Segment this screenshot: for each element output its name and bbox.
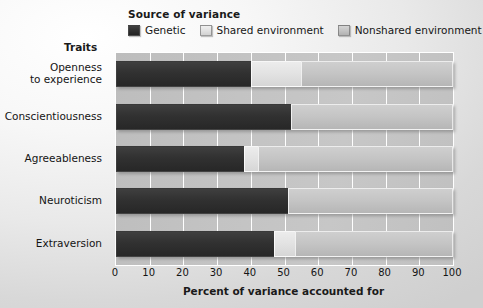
bar-segment-genetic[interactable] bbox=[116, 104, 291, 130]
legend-label-shared-environment: Shared environment bbox=[217, 24, 324, 36]
chart-figure: Source of variance Genetic Shared enviro… bbox=[0, 0, 483, 308]
x-tick-label: 20 bbox=[176, 267, 189, 278]
legend-item-genetic: Genetic bbox=[128, 24, 186, 36]
y-category-label: Openness to experience bbox=[30, 61, 102, 85]
legend-title: Source of variance bbox=[128, 8, 473, 20]
bar-row[interactable] bbox=[116, 146, 453, 172]
bar-segment-genetic[interactable] bbox=[116, 61, 251, 87]
bar-segment-nonshared[interactable] bbox=[295, 231, 453, 257]
y-axis-category-labels: Openness to experienceConscientiousnessA… bbox=[0, 52, 110, 264]
legend-items: Genetic Shared environment Nonshared env… bbox=[128, 24, 473, 36]
bar-row[interactable] bbox=[116, 61, 453, 87]
legend-item-nonshared-environment: Nonshared environment bbox=[338, 24, 482, 36]
stacked-bar[interactable] bbox=[116, 188, 453, 214]
legend-swatch-genetic-icon bbox=[128, 25, 140, 36]
x-axis-tick-labels: 0102030405060708090100 bbox=[115, 267, 452, 281]
x-tick-label: 60 bbox=[311, 267, 324, 278]
plot-area bbox=[115, 52, 454, 266]
y-category-label: Extraversion bbox=[36, 237, 102, 249]
bar-segment-nonshared[interactable] bbox=[288, 188, 453, 214]
bar-segment-nonshared[interactable] bbox=[291, 104, 453, 130]
legend-swatch-shared-environment-icon bbox=[200, 25, 212, 36]
x-tick-label: 0 bbox=[112, 267, 118, 278]
legend-label-genetic: Genetic bbox=[145, 24, 186, 36]
chart-legend: Source of variance Genetic Shared enviro… bbox=[128, 8, 473, 36]
bar-segment-nonshared[interactable] bbox=[258, 146, 453, 172]
stacked-bar[interactable] bbox=[116, 104, 453, 130]
stacked-bar[interactable] bbox=[116, 146, 453, 172]
x-tick-label: 100 bbox=[442, 267, 461, 278]
x-tick-label: 70 bbox=[345, 267, 358, 278]
bar-segment-shared[interactable] bbox=[251, 61, 302, 87]
bar-segment-shared[interactable] bbox=[244, 146, 257, 172]
x-axis-title: Percent of variance accounted for bbox=[115, 285, 452, 297]
bar-segment-genetic[interactable] bbox=[116, 188, 288, 214]
y-category-label: Agreeableness bbox=[25, 152, 102, 164]
y-category-label: Neuroticism bbox=[39, 194, 102, 206]
x-tick-label: 80 bbox=[378, 267, 391, 278]
x-tick-label: 40 bbox=[243, 267, 256, 278]
stacked-bar[interactable] bbox=[116, 61, 453, 87]
stacked-bar[interactable] bbox=[116, 231, 453, 257]
bar-segment-genetic[interactable] bbox=[116, 231, 274, 257]
bar-row[interactable] bbox=[116, 188, 453, 214]
bar-row[interactable] bbox=[116, 231, 453, 257]
x-tick-label: 90 bbox=[412, 267, 425, 278]
legend-swatch-nonshared-environment-icon bbox=[338, 25, 350, 36]
x-tick-label: 10 bbox=[142, 267, 155, 278]
bar-row[interactable] bbox=[116, 104, 453, 130]
x-tick-label: 30 bbox=[210, 267, 223, 278]
bar-series-container bbox=[116, 53, 453, 265]
bar-segment-nonshared[interactable] bbox=[301, 61, 453, 87]
x-tick-label: 50 bbox=[277, 267, 290, 278]
bar-segment-shared[interactable] bbox=[274, 231, 294, 257]
bar-segment-genetic[interactable] bbox=[116, 146, 244, 172]
legend-item-shared-environment: Shared environment bbox=[200, 24, 324, 36]
legend-label-nonshared-environment: Nonshared environment bbox=[355, 24, 482, 36]
y-category-label: Conscientiousness bbox=[5, 110, 102, 122]
